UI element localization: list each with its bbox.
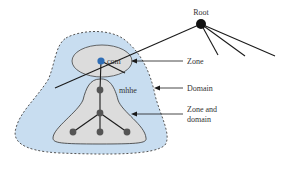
mhhe-label: mhhe xyxy=(119,86,137,95)
domain-annotation: Domain xyxy=(154,84,213,93)
dns-zone-domain-diagram: Root com mhhe Zone Domain Zone and domai… xyxy=(0,0,289,171)
arrow-head-icon xyxy=(154,86,160,91)
com-node xyxy=(97,57,104,64)
zone-label: Zone xyxy=(187,57,204,66)
com-label: com xyxy=(107,57,122,66)
root-label: Root xyxy=(193,8,209,17)
zone-and-domain-label-line1: Zone and xyxy=(187,105,217,114)
tree-node xyxy=(97,110,104,117)
tree-node xyxy=(97,129,104,136)
tree-node xyxy=(70,129,77,136)
root-node xyxy=(196,19,206,29)
tree-node xyxy=(124,129,131,136)
zone-and-domain-label-line2: domain xyxy=(187,115,211,124)
domain-label: Domain xyxy=(187,84,213,93)
root-branch-line-1 xyxy=(201,24,218,55)
mhhe-node xyxy=(97,87,104,94)
